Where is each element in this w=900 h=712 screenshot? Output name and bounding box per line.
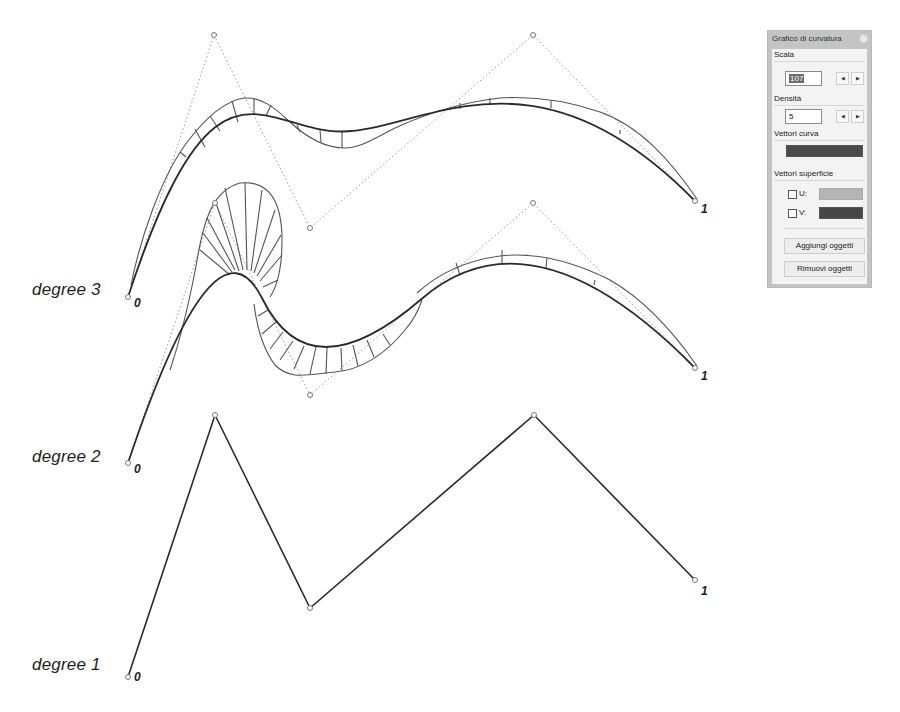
scale-label: Scala [774, 50, 794, 59]
divider [774, 61, 865, 62]
curve-diagram [0, 0, 900, 712]
density-stepper[interactable]: ◀ ▶ [836, 110, 864, 123]
curve-vectors-color-swatch[interactable] [786, 145, 863, 157]
degree-3-control-polygon [128, 35, 695, 297]
u-checkbox[interactable] [788, 190, 797, 199]
degree-2-end-label: 1 [701, 369, 708, 383]
remove-objects-button[interactable]: Rimuovi oggetti [784, 261, 865, 277]
degree-2-control-polygon [128, 203, 695, 463]
divider [774, 105, 865, 106]
scale-decrease-button[interactable]: ◀ [836, 72, 849, 85]
help-icon[interactable] [859, 34, 868, 43]
density-label: Densità [774, 94, 801, 103]
scale-stepper[interactable]: ◀ ▶ [836, 72, 864, 85]
density-increase-button[interactable]: ▶ [851, 110, 864, 123]
degree-3-end-label: 1 [701, 202, 708, 216]
degree-2-curve[interactable] [128, 264, 695, 463]
v-label: V: [799, 208, 806, 217]
panel-body: Scala 107 ◀ ▶ Densità 5 ◀ ▶ Vettori curv… [772, 49, 867, 284]
degree-3-curve[interactable] [128, 104, 695, 297]
density-input[interactable]: 5 [785, 109, 822, 124]
u-color-swatch[interactable] [819, 188, 863, 200]
u-label: U: [799, 189, 807, 198]
divider [784, 228, 865, 229]
degree-1-start-label: 0 [134, 670, 141, 684]
divider [774, 180, 865, 181]
density-decrease-button[interactable]: ◀ [836, 110, 849, 123]
add-objects-button[interactable]: Aggiungi oggetti [784, 238, 865, 254]
degree-2-start-label: 0 [134, 462, 141, 476]
divider [774, 140, 865, 141]
v-color-swatch[interactable] [819, 207, 863, 219]
degree-1-end-label: 1 [701, 584, 708, 598]
surface-vectors-label: Vettori superficie [774, 169, 833, 178]
scale-value: 107 [789, 74, 804, 83]
degree-1-label: degree 1 [32, 655, 101, 675]
panel-title: Grafico di curvatura [772, 34, 842, 43]
curvature-graph-panel: Grafico di curvatura Scala 107 ◀ ▶ Densi… [767, 30, 872, 288]
v-checkbox[interactable] [788, 209, 797, 218]
degree-2-label: degree 2 [32, 447, 101, 467]
scale-increase-button[interactable]: ▶ [851, 72, 864, 85]
curve-vectors-label: Vettori curva [774, 129, 818, 138]
degree-3-start-label: 0 [134, 296, 141, 310]
degree-3-label: degree 3 [32, 280, 101, 300]
panel-title-bar[interactable]: Grafico di curvatura [768, 31, 871, 47]
scale-input[interactable]: 107 [785, 71, 822, 86]
degree-1-curve[interactable] [128, 415, 695, 677]
